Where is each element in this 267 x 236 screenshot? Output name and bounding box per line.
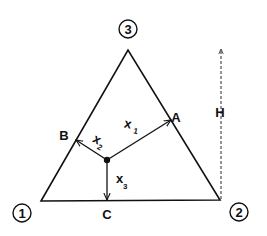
svg-text:1: 1	[133, 127, 140, 137]
height-label: H	[215, 105, 224, 120]
x2-label: x 2	[89, 131, 109, 153]
x1-arrow	[107, 120, 171, 160]
point-a-label: A	[171, 110, 181, 125]
vertex-2-marker: 2	[230, 203, 248, 221]
x1-label: x 1	[122, 116, 141, 137]
svg-text:x: x	[123, 116, 134, 132]
point-b-label: B	[59, 128, 68, 143]
svg-text:3: 3	[123, 182, 128, 191]
vertex-2-label: 2	[235, 205, 242, 220]
x3-label: x 3	[116, 171, 128, 191]
vertex-1-label: 1	[18, 206, 25, 221]
vertex-3-label: 3	[124, 22, 131, 37]
vertex-1-marker: 1	[13, 204, 31, 222]
point-c-label: C	[102, 207, 112, 222]
ternary-diagram: 3 1 2 A B C x 1 x 2 x 3 H	[0, 0, 267, 236]
vertex-3-marker: 3	[119, 20, 137, 38]
